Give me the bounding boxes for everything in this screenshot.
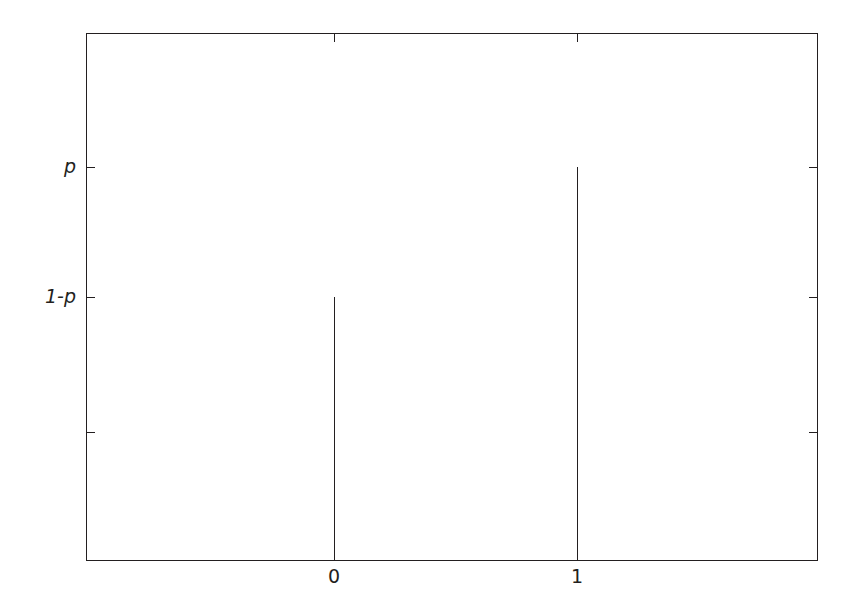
y-tick-mark-right-lower	[809, 432, 818, 433]
x-tick-label-1: 1	[547, 566, 607, 587]
y-tick-label-one-minus-p: 1-p	[45, 287, 76, 306]
y-tick-mark-right-middle	[809, 297, 818, 298]
y-tick-mark-right-upper	[809, 167, 818, 168]
y-tick-mark-p	[86, 167, 95, 168]
y-tick-label-p: p	[64, 157, 76, 176]
x-tick-label-0: 0	[304, 566, 364, 587]
x-tick-mark-top-1	[577, 33, 578, 42]
y-tick-label-one-minus-p-box: 1-p	[0, 287, 76, 307]
x-tick-mark-top-0	[334, 33, 335, 42]
y-tick-mark-one-minus-p	[86, 297, 95, 298]
impulse-at-1: p	[577, 167, 578, 561]
plot-area	[86, 33, 818, 561]
chart-figure: p 1-p 0 1 1-p p	[0, 0, 860, 603]
y-tick-label-p-box: p	[0, 157, 76, 177]
impulse-at-0: 1-p	[334, 297, 335, 561]
y-tick-mark-unlabeled	[86, 432, 95, 433]
